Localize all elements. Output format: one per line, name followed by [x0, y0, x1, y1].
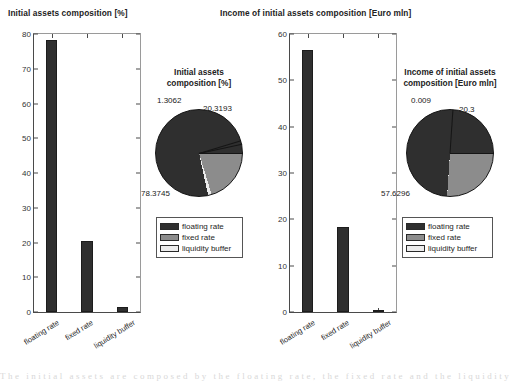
left-legend-item-fixed-rate: fixed rate [160, 232, 238, 243]
left-legend-label-fixed-rate: fixed rate [182, 233, 215, 242]
left-ytick-50: 50 [22, 134, 34, 143]
swatch-floating-rate-icon [160, 223, 179, 230]
right-legend-label-floating-rate: floating rate [428, 222, 470, 231]
swatch-fixed-rate-icon [160, 234, 179, 241]
right-legend-item-liquidity-buffer: liquidity buffer [406, 243, 488, 254]
left-legend: floating rate fixed rate liquidity buffe… [156, 217, 243, 258]
right-chart-title: Income of initial assets composition [Eu… [220, 8, 411, 18]
left-ytick-0: 0 [27, 308, 34, 317]
left-legend-label-floating-rate: floating rate [182, 222, 224, 231]
left-bar-floating-rate [46, 40, 57, 312]
left-legend-item-liquidity-buffer: liquidity buffer [160, 243, 238, 254]
left-pie-chart [155, 109, 243, 197]
right-ytick-0: 0 [283, 308, 290, 317]
right-pie-label-floating-rate: 57.6296 [381, 189, 410, 198]
left-ytick-30: 30 [22, 203, 34, 212]
left-bar-axes: 0 10 20 30 40 50 60 70 80 [33, 33, 141, 313]
right-bar-liquidity-buffer [373, 310, 384, 312]
right-legend-label-liquidity-buffer: liquidity buffer [428, 244, 477, 253]
left-ytick-80: 80 [22, 30, 34, 39]
left-bar-liquidity-buffer [117, 307, 128, 312]
left-legend-label-liquidity-buffer: liquidity buffer [182, 244, 231, 253]
left-ytick-10: 10 [22, 273, 34, 282]
right-legend-label-fixed-rate: fixed rate [428, 233, 461, 242]
right-bar-axes: 0 10 20 30 40 50 60 [289, 33, 397, 313]
right-pie-title-line1: Income of initial assets [404, 67, 495, 77]
right-legend: floating rate fixed rate liquidity buffe… [402, 217, 493, 258]
left-pie-label-liquidity-buffer: 1.3062 [157, 96, 181, 105]
matlab-figure: Initial assets composition [%] 0 10 20 3… [0, 0, 511, 386]
left-pie-label-fixed-rate: 20.3193 [203, 104, 232, 113]
right-legend-item-floating-rate: floating rate [406, 221, 488, 232]
right-ytick-10: 10 [278, 261, 290, 270]
left-ytick-40: 40 [22, 169, 34, 178]
panel-initial-assets: Initial assets composition [%] 0 10 20 3… [0, 0, 255, 386]
left-pie-label-floating-rate: 78.3745 [141, 189, 170, 198]
right-ytick-30: 30 [278, 169, 290, 178]
left-ytick-60: 60 [22, 99, 34, 108]
right-pie-label-fixed-rate: 20.3 [459, 105, 475, 114]
swatch-floating-rate-icon [406, 223, 425, 230]
left-chart-title: Initial assets composition [%] [8, 8, 128, 18]
right-pie-label-liquidity-buffer: 0.009 [411, 96, 431, 105]
left-ytick-20: 20 [22, 238, 34, 247]
right-ytick-60: 60 [278, 30, 290, 39]
page-footer-text: The initial assets are composed by the f… [0, 371, 511, 381]
panel-income-initial-assets: Income of initial assets composition [Eu… [256, 0, 511, 386]
left-bar-fixed-rate [81, 241, 92, 312]
swatch-liquidity-buffer-icon [406, 245, 425, 252]
right-pie-chart [406, 109, 494, 197]
right-legend-item-fixed-rate: fixed rate [406, 232, 488, 243]
left-pie-title-line1: Initial assets [174, 67, 224, 77]
left-ytick-70: 70 [22, 64, 34, 73]
right-ytick-50: 50 [278, 76, 290, 85]
right-bar-floating-rate [302, 50, 313, 312]
right-ytick-20: 20 [278, 215, 290, 224]
right-pie-title-line2: composition [Euro mln] [403, 78, 496, 88]
right-bar-fixed-rate [337, 227, 348, 312]
right-ytick-40: 40 [278, 122, 290, 131]
swatch-liquidity-buffer-icon [160, 245, 179, 252]
left-pie-title-line2: composition [%] [167, 78, 232, 88]
left-legend-item-floating-rate: floating rate [160, 221, 238, 232]
swatch-fixed-rate-icon [406, 234, 425, 241]
